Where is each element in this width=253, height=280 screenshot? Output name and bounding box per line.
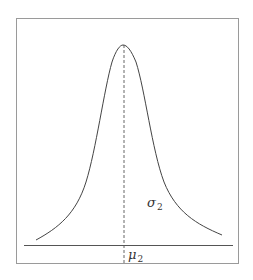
density-curve bbox=[36, 45, 222, 240]
mu-subscript: 2 bbox=[137, 254, 143, 264]
mu-label: μ2 bbox=[128, 248, 143, 264]
sigma-label: σ2 bbox=[147, 196, 163, 212]
mu-symbol: μ bbox=[128, 247, 136, 262]
sigma-symbol: σ bbox=[147, 195, 156, 210]
distribution-diagram bbox=[0, 0, 253, 280]
sigma-subscript: 2 bbox=[157, 202, 163, 212]
